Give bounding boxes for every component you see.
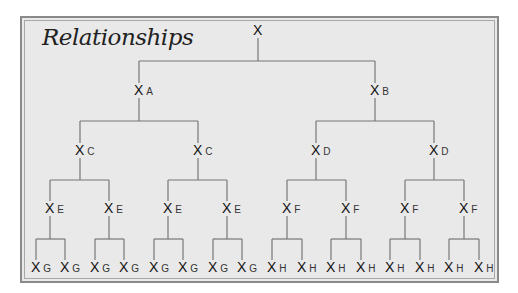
node-symbol: X [222, 200, 231, 216]
node-symbol: X [237, 259, 246, 275]
node-label: G [102, 263, 110, 274]
node-symbol: X [415, 259, 424, 275]
node-label: E [234, 204, 241, 215]
tree-node-e3: XE [163, 200, 182, 216]
tree-node-h1: XH [267, 259, 287, 275]
node-symbol: X [193, 142, 202, 158]
tree-node-h7: XH [444, 259, 464, 275]
tree-node-c2: XC [193, 142, 213, 158]
node-label: E [57, 204, 64, 215]
node-symbol: X [178, 259, 187, 275]
tree-node-e1: XE [45, 200, 64, 216]
tree-node-h5: XH [385, 259, 405, 275]
tree-node-h3: XH [326, 259, 346, 275]
node-symbol: X [31, 259, 40, 275]
node-symbol: X [163, 200, 172, 216]
tree-node-f2: XF [341, 200, 359, 216]
node-label: F [294, 204, 300, 215]
node-label: F [353, 204, 359, 215]
tree-node-f1: XF [282, 200, 300, 216]
node-label: H [486, 263, 493, 274]
tree-node-g3: XG [90, 259, 110, 275]
tree-node-h4: XH [356, 259, 376, 275]
node-label: H [368, 263, 375, 274]
node-symbol: X [282, 200, 291, 216]
node-symbol: X [119, 259, 128, 275]
tree-node-h8: XH [474, 259, 494, 275]
node-label: G [220, 263, 228, 274]
node-symbol: X [134, 82, 143, 98]
node-symbol: X [385, 259, 394, 275]
tree-node-g6: XG [178, 259, 198, 275]
tree-node-f3: XF [400, 200, 418, 216]
node-symbol: X [60, 259, 69, 275]
tree-node-g8: XG [237, 259, 257, 275]
tree-node-b: XB [370, 82, 389, 98]
tree-node-g1: XG [31, 259, 51, 275]
node-label: E [175, 204, 182, 215]
node-label: H [427, 263, 434, 274]
node-symbol: X [444, 259, 453, 275]
node-label: D [323, 146, 330, 157]
node-label: C [205, 146, 212, 157]
node-symbol: X [253, 22, 262, 38]
tree-node-g5: XG [149, 259, 169, 275]
node-symbol: X [400, 200, 409, 216]
node-label: E [116, 204, 123, 215]
node-label: G [131, 263, 139, 274]
tree-node-g2: XG [60, 259, 80, 275]
tree-node-a: XA [134, 82, 153, 98]
tree-node-d1: XD [311, 142, 331, 158]
node-symbol: X [297, 259, 306, 275]
node-label: F [471, 204, 477, 215]
node-symbol: X [341, 200, 350, 216]
node-symbol: X [459, 200, 468, 216]
node-symbol: X [90, 259, 99, 275]
node-label: C [87, 146, 94, 157]
node-symbol: X [370, 82, 379, 98]
node-symbol: X [474, 259, 483, 275]
tree-node-e4: XE [222, 200, 241, 216]
node-symbol: X [356, 259, 365, 275]
node-label: H [309, 263, 316, 274]
node-label: G [249, 263, 257, 274]
node-label: A [146, 86, 153, 97]
node-label: B [382, 86, 389, 97]
node-symbol: X [429, 142, 438, 158]
tree-node-d2: XD [429, 142, 449, 158]
node-symbol: X [267, 259, 276, 275]
tree-node-h2: XH [297, 259, 317, 275]
node-label: D [441, 146, 448, 157]
tree-node-g4: XG [119, 259, 139, 275]
node-symbol: X [45, 200, 54, 216]
node-label: G [190, 263, 198, 274]
node-symbol: X [104, 200, 113, 216]
tree-node-h6: XH [415, 259, 435, 275]
node-symbol: X [149, 259, 158, 275]
tree-node-f4: XF [459, 200, 477, 216]
node-label: H [456, 263, 463, 274]
node-label: G [161, 263, 169, 274]
node-symbol: X [75, 142, 84, 158]
tree-node-g7: XG [208, 259, 228, 275]
node-symbol: X [208, 259, 217, 275]
tree-node-e2: XE [104, 200, 123, 216]
node-label: G [43, 263, 51, 274]
node-label: H [279, 263, 286, 274]
node-label: G [72, 263, 80, 274]
node-label: F [412, 204, 418, 215]
tree-node-c1: XC [75, 142, 95, 158]
tree-node-root: X [253, 22, 262, 38]
node-symbol: X [311, 142, 320, 158]
node-label: H [397, 263, 404, 274]
node-symbol: X [326, 259, 335, 275]
node-label: H [338, 263, 345, 274]
